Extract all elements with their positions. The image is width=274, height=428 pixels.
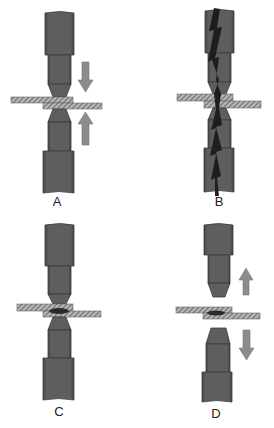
- down-arrow-icon: [239, 330, 254, 360]
- up-arrow-icon: [239, 268, 253, 295]
- up-arrow-icon: [78, 112, 93, 145]
- sheet-plates: [17, 304, 101, 317]
- sheet-plates: [11, 97, 102, 109]
- upper-electrode: [45, 12, 74, 98]
- panel-b: B: [177, 8, 261, 209]
- panel-c: C: [17, 224, 101, 420]
- lower-electrode: [202, 328, 232, 402]
- panel-d: D: [176, 224, 260, 422]
- lower-electrode: [43, 317, 74, 400]
- panel-label-a: A: [53, 194, 62, 209]
- panel-a: A: [11, 12, 102, 210]
- down-arrow-icon: [78, 62, 93, 92]
- lower-electrode: [43, 109, 74, 193]
- upper-electrode: [205, 10, 234, 95]
- weld-nugget: [49, 308, 69, 314]
- panel-label-c: C: [54, 404, 63, 419]
- upper-electrode: [45, 224, 74, 305]
- panel-label-d: D: [211, 406, 220, 421]
- panel-label-b: B: [215, 194, 224, 209]
- spot-welding-diagram: A B: [0, 0, 274, 428]
- upper-electrode: [204, 224, 233, 298]
- weld-nugget: [207, 311, 225, 316]
- sheet-plates: [176, 307, 260, 319]
